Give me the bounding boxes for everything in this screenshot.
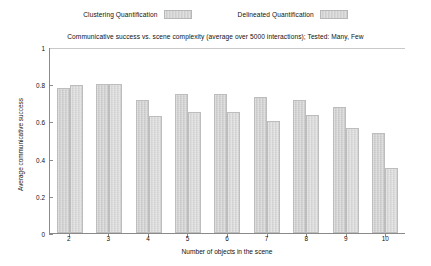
x-axis-tick-label: 9 — [326, 235, 366, 247]
bar-group — [326, 48, 365, 233]
y-axis-tick-label: 0.2 — [36, 193, 45, 200]
x-axis-title: Number of objects in the scene — [49, 248, 405, 255]
y-axis-tick-label: 0.4 — [36, 156, 45, 163]
bar — [96, 84, 109, 233]
y-axis-tick-label: 1 — [41, 45, 45, 52]
bar-group — [247, 48, 286, 233]
legend-swatch-icon — [164, 10, 192, 19]
y-axis-tick-label: 0.6 — [36, 119, 45, 126]
bar — [306, 115, 319, 233]
bar — [175, 94, 188, 234]
bar — [227, 112, 240, 233]
bar — [149, 116, 162, 233]
bar-group — [287, 48, 326, 233]
x-axis-tick-label: 2 — [49, 235, 89, 247]
y-axis-tick-label: 0.8 — [36, 82, 45, 89]
legend-label: Clustering Quantification — [83, 11, 157, 18]
bar — [57, 88, 70, 233]
bar-group — [129, 48, 168, 233]
legend-entry-delineated-quantification: Delineated Quantification — [238, 10, 348, 19]
legend-swatch-icon — [320, 10, 348, 19]
bar — [136, 100, 149, 233]
bar — [385, 168, 398, 233]
x-axis-tick-label: 6 — [207, 235, 247, 247]
y-axis-tick-label: 0 — [41, 231, 45, 238]
x-axis-tick-label: 4 — [128, 235, 168, 247]
bar — [109, 84, 122, 233]
bar — [346, 128, 359, 233]
bar-group — [168, 48, 207, 233]
plot-area — [49, 48, 405, 234]
bar — [254, 97, 267, 233]
legend-label: Delineated Quantification — [238, 11, 314, 18]
x-axis-tick-label: 7 — [247, 235, 287, 247]
chart-title: Communicative success vs. scene complexi… — [0, 33, 431, 40]
bar — [214, 94, 227, 233]
x-axis-tick-label: 5 — [168, 235, 208, 247]
bar-group — [366, 48, 405, 233]
legend-entry-clustering-quantification: Clustering Quantification — [83, 10, 191, 19]
bar-groups — [50, 48, 405, 233]
x-axis-tick-label: 3 — [89, 235, 129, 247]
x-axis-tick-label: 8 — [286, 235, 326, 247]
bar-chart: Clustering Quantification Delineated Qua… — [0, 0, 431, 266]
y-axis-ticks: 00.20.40.60.81 — [0, 48, 49, 234]
bar-group — [50, 48, 89, 233]
x-axis-tick-label: 10 — [366, 235, 406, 247]
bar — [333, 107, 346, 233]
bar — [372, 133, 385, 233]
bar — [188, 112, 201, 233]
bar-group — [208, 48, 247, 233]
bar-group — [89, 48, 128, 233]
bar — [293, 100, 306, 233]
chart-legend: Clustering Quantification Delineated Qua… — [0, 8, 431, 20]
bar — [70, 85, 83, 233]
bar — [267, 121, 280, 233]
x-axis-ticks: 2345678910 — [49, 235, 405, 247]
